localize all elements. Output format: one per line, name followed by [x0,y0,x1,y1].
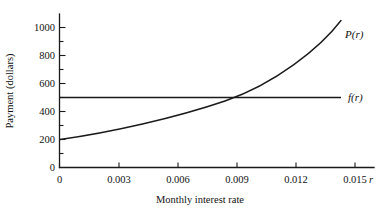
curve-label-f: f(r) [348,91,363,104]
x-tick-labels: 0 0.003 0.006 0.009 0.012 0.015 [57,174,367,185]
x-tick-label-5: 0.015 [343,174,367,185]
series-curve-p [60,21,341,140]
x-axis-title: Monthly interest rate [156,194,244,205]
y-tick-label-0: 0 [50,162,55,173]
y-tick-label-400: 400 [39,106,55,117]
y-tick-label-200: 200 [39,134,55,145]
y-tick-labels: 1000 800 600 400 200 0 [34,22,55,173]
x-tick-label-1: 0.003 [107,174,131,185]
chart-figure: 1000 800 600 400 200 0 0 0.003 0.006 0.0… [0,0,384,217]
y-axis-title: Payment (dollars) [4,53,16,128]
x-tick-label-2: 0.006 [166,174,190,185]
x-ticks [60,163,356,168]
y-tick-label-600: 600 [39,78,55,89]
x-axis-variable-label: r [369,174,374,185]
y-major-ticks [60,28,66,140]
chart-svg: 1000 800 600 400 200 0 0 0.003 0.006 0.0… [0,0,384,217]
x-tick-label-4: 0.012 [284,174,308,185]
x-tick-label-0: 0 [57,174,62,185]
x-tick-label-3: 0.009 [225,174,249,185]
curve-label-p: P(r) [344,28,364,41]
y-tick-label-800: 800 [39,50,55,61]
y-tick-label-1000: 1000 [34,22,55,33]
